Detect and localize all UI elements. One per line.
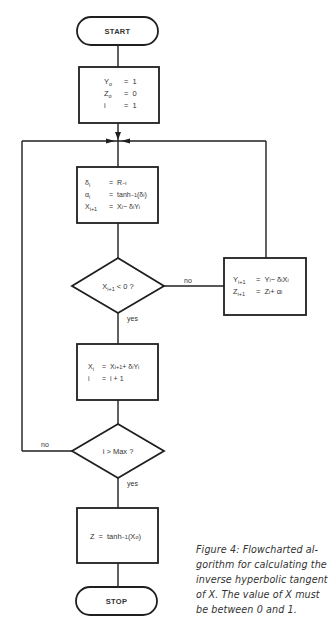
update-yz-equations: Yi+1 = Yi − δiXi Zi+1 = Zi + αi (233, 275, 289, 299)
arrowhead-down-icon (115, 132, 121, 140)
subscript: o (109, 81, 112, 87)
caption-line: be between 0 and 1. (196, 602, 336, 617)
init-row-y0: Yo = 1 (104, 77, 137, 89)
caption-line: inverse hyperbolic tangent (196, 572, 336, 587)
restore-x-equations: Xi = Xi+1 + δiYi i = i + 1 (88, 362, 139, 384)
decision1-label: Xi+1 < 0 ? (72, 282, 164, 292)
subscript: i+1 (238, 279, 246, 285)
equals: = (124, 77, 128, 89)
value: 1 (132, 101, 136, 111)
term: − δ (271, 275, 282, 287)
subscript: i+1 (90, 206, 98, 212)
var: i (88, 375, 90, 382)
edge-label-decision2-no: no (41, 441, 49, 448)
subscript: i (89, 194, 90, 200)
subscript: i (288, 275, 289, 287)
term: + α (270, 287, 281, 299)
equals: = (109, 178, 113, 190)
var: i (104, 101, 106, 110)
edge-label-decision2-yes: yes (127, 480, 138, 487)
equals: = (109, 202, 113, 214)
compute-row-delta: δi = R−i (85, 178, 147, 190)
result-row-z: Z = tanh−1(Xo) (90, 532, 141, 542)
equals: = (256, 275, 260, 287)
update-row-z: Zi+1 = Zi + αi (233, 287, 289, 299)
subscript: i (139, 202, 140, 214)
equals: = (109, 190, 113, 202)
stop-label: STOP (76, 597, 157, 606)
subscript: i (138, 362, 139, 374)
equals: = (256, 287, 260, 299)
function: tanh (107, 532, 122, 542)
compute-row-alpha: αi = tanh−1(δi) (85, 190, 147, 202)
caption-line: gorithm for calculating the (196, 557, 336, 572)
flowchart-canvas (0, 0, 336, 617)
equals: = (102, 362, 106, 374)
equals: = (102, 374, 106, 384)
value: i + 1 (110, 374, 123, 384)
function: tanh (117, 190, 131, 202)
arrowhead-left-icon (121, 139, 130, 144)
restore-row-x: Xi = Xi+1 + δiYi (88, 362, 139, 374)
result-equation: Z = tanh−1(Xo) (90, 532, 141, 542)
edge-label-decision1-yes: yes (127, 315, 138, 322)
var: Z (90, 532, 95, 542)
init-row-i: i = 1 (104, 101, 137, 111)
argument: (X (128, 532, 136, 542)
superscript: −i (122, 178, 126, 190)
subscript: i (281, 287, 282, 299)
equals: = (124, 89, 128, 101)
compute-row-x: Xi+1 = Xi − δiYi (85, 202, 147, 214)
equals: = (99, 532, 103, 542)
update-row-y: Yi+1 = Yi − δiXi (233, 275, 289, 287)
subscript: i+1 (107, 286, 115, 292)
decision2-label: i > Max ? (72, 447, 164, 456)
subscript: i+1 (238, 291, 246, 297)
term: + δ (122, 362, 132, 374)
restore-row-i: i = i + 1 (88, 374, 139, 384)
value: 1 (132, 77, 136, 89)
edge-label-decision1-no: no (184, 277, 192, 284)
subscript: i (93, 366, 94, 372)
subscript: i+1 (115, 362, 123, 374)
caption-line: Figure 4: Flowcharted al- (196, 542, 336, 557)
equals: = (124, 101, 128, 111)
caption-line: of X. The value of X must (196, 587, 336, 602)
paren: ) (138, 532, 141, 542)
subscript: i (89, 182, 90, 188)
figure-caption: Figure 4: Flowcharted al- gorithm for ca… (196, 542, 336, 617)
subscript: o (109, 93, 112, 99)
compute-equations: δi = R−i αi = tanh−1(δi) Xi+1 = Xi − δiY… (85, 178, 147, 214)
init-equations: Yo = 1 Zo = 0 i = 1 (104, 77, 137, 111)
arrowhead-right-icon (106, 139, 115, 144)
init-row-z0: Zo = 0 (104, 89, 137, 101)
term: − δ (123, 202, 133, 214)
condition: < 0 ? (115, 282, 134, 291)
value: 0 (132, 89, 136, 101)
paren: ) (144, 190, 146, 202)
start-label: START (77, 27, 158, 36)
